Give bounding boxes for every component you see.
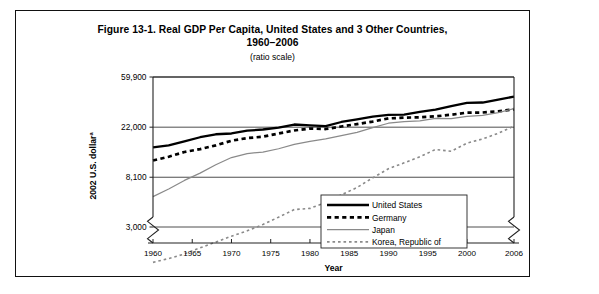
x-tick-label-1965: 1965 [183, 249, 202, 258]
legend-label-united-states: United States [372, 200, 422, 210]
x-axis-title: Year [324, 263, 343, 273]
x-tick-label-1970: 1970 [222, 249, 241, 258]
x-tick-label-1980: 1980 [301, 249, 320, 258]
figure-screenshot: Figure 13-1. Real GDP Per Capita, United… [0, 0, 599, 294]
x-axis-tick-labels: 1960196519701975198019851990199520002006 [144, 249, 524, 258]
series-line-united-states [153, 97, 514, 148]
y-tick-label-59900: 59,900 [121, 72, 147, 82]
chart-plot-area: 59,90022,0008,1003,000 19601965197019751… [16, 11, 530, 277]
y-tick-label-3000: 3,000 [126, 222, 147, 232]
x-tick-label-1975: 1975 [262, 249, 281, 258]
series-line-japan [153, 109, 514, 197]
y-axis-title: 2002 U.S. dollara [88, 132, 98, 200]
legend-label-germany: Germany [372, 213, 407, 223]
y-tick-label-8100: 8,100 [126, 172, 147, 182]
x-tick-label-2006: 2006 [505, 249, 524, 258]
x-axis-title-text: Year [324, 263, 343, 273]
x-tick-label-1990: 1990 [379, 249, 398, 258]
figure-border-box: Figure 13-1. Real GDP Per Capita, United… [15, 10, 530, 277]
x-tick-label-1985: 1985 [340, 249, 359, 258]
legend-label-japan: Japan [372, 225, 395, 235]
legend-label-korea-republic-of: Korea, Republic of [372, 237, 442, 247]
y-axis-title-text: 2002 U.S. dollara [88, 132, 98, 200]
chart-legend: United StatesGermanyJapanKorea, Republic… [321, 195, 467, 248]
y-tick-label-22000: 22,000 [121, 122, 147, 132]
x-tick-label-1995: 1995 [419, 249, 438, 258]
x-tick-label-1960: 1960 [144, 249, 163, 258]
x-tick-label-2000: 2000 [458, 249, 477, 258]
y-axis-tick-labels: 59,90022,0008,1003,000 [121, 72, 147, 232]
